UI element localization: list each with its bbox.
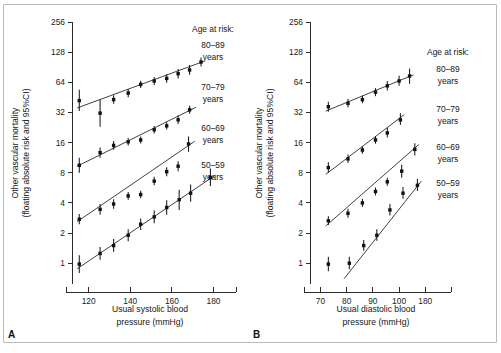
data-point	[187, 142, 190, 145]
data-point	[176, 165, 179, 168]
data-point	[361, 98, 364, 101]
data-point	[153, 79, 156, 82]
panel-label: B	[253, 329, 260, 340]
y-tick-label: 16	[294, 138, 304, 148]
legend-item-range: 70–79	[201, 82, 225, 92]
data-point	[388, 208, 391, 211]
data-point	[165, 124, 168, 127]
y-tick-label: 32	[294, 107, 304, 117]
panel-a-canvas: 1248163264128256120140160180Other vascul…	[0, 0, 250, 353]
data-point	[153, 215, 156, 218]
fit-line-5059	[344, 181, 421, 279]
y-tick-label: 2	[60, 228, 65, 238]
data-point	[327, 219, 330, 222]
data-point	[386, 84, 389, 87]
y-tick-label: 128	[289, 47, 303, 57]
y-tick-label: 64	[294, 77, 304, 87]
data-point	[112, 98, 115, 101]
data-point	[112, 202, 115, 205]
y-tick-label: 128	[51, 47, 65, 57]
data-point	[176, 72, 179, 75]
y-tick-label: 4	[298, 198, 303, 208]
legend-item-unit: years	[203, 94, 223, 104]
data-point	[153, 128, 156, 131]
data-point	[78, 99, 81, 102]
data-point	[188, 108, 191, 111]
panel-a: 1248163264128256120140160180Other vascul…	[0, 0, 250, 353]
legend-item-range: 50–59	[201, 160, 225, 170]
data-point	[374, 138, 377, 141]
y-axis-title-line2: (floating absolute risk and 95%CI)	[265, 88, 275, 217]
data-point	[98, 208, 101, 211]
x-tick-label: 70	[316, 296, 326, 306]
legend-item-unit: years	[203, 172, 223, 182]
data-point	[400, 169, 403, 172]
legend-item-unit: years	[438, 190, 458, 200]
y-tick-label: 2	[298, 228, 303, 238]
data-point	[361, 148, 364, 151]
data-point	[188, 68, 191, 71]
panel-label: A	[8, 329, 15, 340]
y-tick-label: 8	[298, 168, 303, 178]
panel-b-canvas: 1248163264128256708090100180Other vascul…	[248, 0, 501, 353]
fit-line-6069	[77, 141, 195, 221]
data-point	[362, 244, 365, 247]
x-tick-label: 180	[418, 296, 432, 306]
legend-item-unit: years	[438, 116, 458, 126]
data-point	[165, 170, 168, 173]
legend-item-unit: years	[438, 154, 458, 164]
data-point	[165, 77, 168, 80]
data-point	[176, 118, 179, 121]
data-point	[399, 118, 402, 121]
data-point	[327, 166, 330, 169]
legend-title: Age at risk:	[427, 47, 469, 57]
legend-title: Age at risk:	[192, 24, 234, 34]
legend-item-unit: years	[438, 76, 458, 86]
data-point	[153, 179, 156, 182]
data-point	[375, 234, 378, 237]
x-axis-title-line2: pressure (mmHg)	[343, 317, 410, 327]
data-point	[165, 206, 168, 209]
legend-item-unit: years	[203, 52, 223, 62]
fit-line-5059	[77, 175, 215, 269]
data-point	[126, 91, 129, 94]
data-point	[126, 234, 129, 237]
data-point	[189, 191, 192, 194]
y-tick-label: 32	[56, 107, 66, 117]
data-point	[98, 111, 101, 114]
y-axis-title-line1: Other vascular mortality	[254, 107, 264, 198]
data-point	[361, 201, 364, 204]
legend-item-range: 80–89	[436, 64, 460, 74]
data-point	[346, 212, 349, 215]
legend-item-range: 80–89	[201, 40, 225, 50]
data-point	[374, 190, 377, 193]
data-point	[386, 180, 389, 183]
data-point	[346, 102, 349, 105]
x-axis-title-line2: pressure (mmHg)	[117, 317, 184, 327]
data-point	[78, 218, 81, 221]
fit-line-6069	[326, 145, 419, 226]
data-point	[401, 191, 404, 194]
data-point	[416, 184, 419, 187]
legend-item-range: 50–59	[436, 178, 460, 188]
data-point	[386, 131, 389, 134]
y-tick-label: 4	[60, 198, 65, 208]
data-point	[98, 151, 101, 154]
data-point	[413, 148, 416, 151]
data-point	[78, 164, 81, 167]
legend-item-unit: years	[203, 135, 223, 145]
y-tick-label: 16	[56, 138, 66, 148]
y-tick-label: 256	[289, 17, 303, 27]
data-point	[374, 90, 377, 93]
y-tick-label: 8	[60, 168, 65, 178]
y-tick-label: 256	[51, 17, 65, 27]
data-point	[112, 144, 115, 147]
data-point	[139, 83, 142, 86]
y-axis-title-line2: (floating absolute risk and 95%CI)	[21, 88, 31, 217]
fit-line-7079	[326, 115, 405, 175]
x-axis-title-line1: Usual diastolic blood	[337, 304, 416, 314]
data-point	[139, 138, 142, 141]
data-point	[408, 74, 411, 77]
x-tick-label: 120	[82, 296, 96, 306]
data-point	[112, 244, 115, 247]
